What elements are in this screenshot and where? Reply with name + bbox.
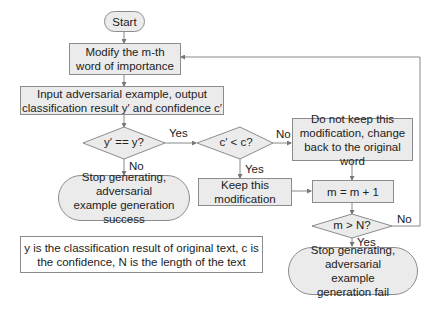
legend-note-box: y is the classification result of origin… <box>20 236 263 273</box>
modify-label: Modify the m-th word of importance <box>74 45 176 73</box>
revert-label: Do not keep this modification, change ba… <box>293 112 412 168</box>
increment-label: m = m + 1 <box>327 185 379 199</box>
revert-modification-box: Do not keep this modification, change ba… <box>292 118 413 161</box>
legend-note-text: y is the classification result of origin… <box>24 241 259 269</box>
modify-word-box: Modify the m-th word of importance <box>69 43 181 75</box>
yes-label-1: Yes <box>169 127 188 139</box>
success-label: Stop generating, adversarial example gen… <box>59 170 189 226</box>
no-label-3: No <box>397 213 412 225</box>
start-terminal: Start <box>104 11 145 32</box>
success-terminal: Stop generating, adversarial example gen… <box>58 175 190 221</box>
decision-y-text: y′ == y? <box>90 136 158 148</box>
decision-c-text: c′ < c? <box>205 136 267 148</box>
keep-label: Keep this modification <box>209 178 281 206</box>
no-label-2: No <box>276 128 291 140</box>
input-label: Input adversarial example, output classi… <box>21 87 223 115</box>
input-example-box: Input adversarial example, output classi… <box>20 86 224 115</box>
fail-label: Stop generating, adversarial example gen… <box>289 243 417 299</box>
increment-m-box: m = m + 1 <box>312 180 394 203</box>
decision-m-text: m > N? <box>320 219 384 231</box>
keep-modification-box: Keep this modification <box>198 178 292 206</box>
fail-terminal: Stop generating, adversarial example gen… <box>288 247 418 295</box>
yes-label-2: Yes <box>245 163 264 175</box>
start-label: Start <box>112 15 136 29</box>
